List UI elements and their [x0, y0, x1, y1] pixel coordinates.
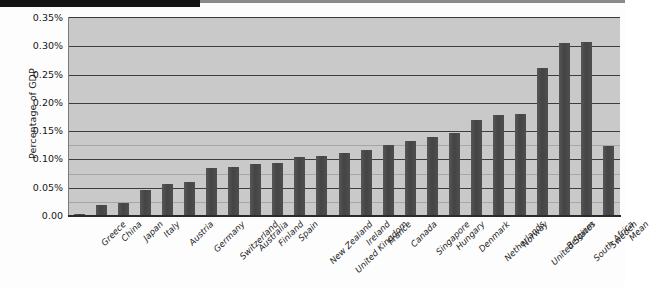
y-axis-tick-label: 0.00 [9, 210, 63, 221]
bar [316, 156, 327, 216]
bar [383, 145, 394, 216]
bar [515, 114, 526, 216]
bar [493, 115, 504, 216]
bar [272, 163, 283, 216]
y-axis-tick-label: 0.35% [9, 12, 63, 23]
bar [140, 190, 151, 216]
bar [405, 141, 416, 216]
x-axis-line [68, 215, 621, 217]
x-axis-tick-label: Canada [409, 219, 439, 249]
y-axis-title: Percentage of GDP [27, 34, 38, 194]
bar [581, 42, 592, 216]
gridline [68, 46, 620, 47]
bar [427, 137, 438, 216]
scan-edge-artifact-corner [0, 0, 200, 7]
y-axis-line [68, 17, 69, 216]
bar [449, 133, 460, 216]
plot-area [68, 17, 620, 216]
bar [537, 68, 548, 216]
bar [206, 168, 217, 216]
y-axis-tick-label: 0.30% [9, 40, 63, 51]
y-axis-tick-label: 0.15% [9, 125, 63, 136]
bar [603, 146, 614, 216]
y-axis-tick-label: 0.25% [9, 68, 63, 79]
y-axis-tick-label: 0.05% [9, 181, 63, 192]
bar [471, 120, 482, 216]
y-axis-tick-label: 0.10% [9, 153, 63, 164]
bar [184, 182, 195, 216]
x-axis-tick-label: Italy [162, 219, 182, 239]
bar [228, 167, 239, 216]
bar [559, 43, 570, 216]
bar [250, 164, 261, 216]
x-axis-tick-label: Austria [187, 219, 216, 248]
bar [339, 153, 350, 216]
bar [162, 184, 173, 216]
x-axis-tick-labels: GreeceChinaJapanItalyAustriaGermanySwitz… [68, 219, 620, 287]
bar [294, 157, 305, 216]
y-axis-tick-label: 0.20% [9, 96, 63, 107]
bar [361, 150, 372, 216]
x-axis-tick-label: Belgium [564, 219, 596, 251]
